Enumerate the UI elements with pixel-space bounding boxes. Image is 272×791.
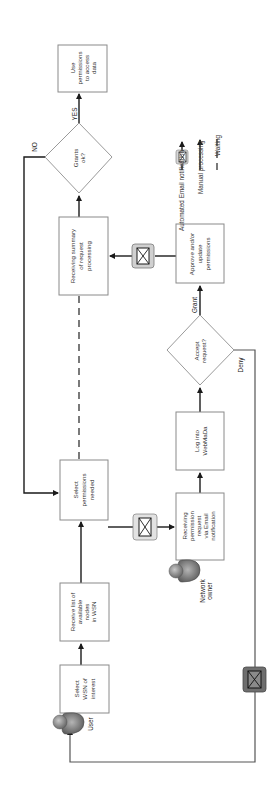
user-label: User [87,716,94,730]
flowchart: Use permissions to access data Grants ok… [0,0,272,791]
svg-text:Select: Select [73,680,80,697]
decision-grants-ok: Grants ok? [45,123,112,193]
svg-text:via Email: via Email [202,513,209,538]
svg-text:Use: Use [69,62,76,74]
svg-text:request: request [195,515,202,536]
node-approve-update: Approve and/or update permissions [176,224,224,283]
node-select-permissions: Select permissions needed [60,460,108,520]
svg-text:permission: permission [188,510,195,540]
svg-text:Log into: Log into [193,429,200,452]
svg-text:Approve and/or: Approve and/or [188,233,195,275]
edge-label-grant: Grant [191,297,198,313]
svg-text:Select: Select [72,481,79,498]
svg-text:data: data [90,61,97,74]
svg-text:WebMaDa: WebMaDa [201,426,208,456]
email-icon [133,514,157,540]
svg-text:update: update [196,244,203,263]
svg-text:in WSN: in WSN [90,602,97,623]
svg-text:needed: needed [88,479,95,500]
svg-text:processing: processing [85,240,92,270]
legend-waiting-label: Waiting [214,134,222,156]
arrow-no-loop [24,157,58,493]
network-owner-label-2: owner [206,581,213,599]
email-icon [132,244,154,268]
edge-label-yes: YES [71,108,78,121]
svg-text:permissions: permissions [80,473,87,506]
legend-email-label: Automated Email notification [178,150,185,231]
node-log-into-webmada: Log into WebMaDa [176,412,224,470]
svg-text:permissions: permissions [204,237,211,270]
legend-manual-label: Manual processing [197,140,205,194]
svg-text:of request: of request [77,242,84,270]
node-select-wsn: Select WSN of interest [60,665,109,713]
svg-text:request?: request? [200,338,207,363]
svg-text:ok?: ok? [79,152,86,163]
svg-text:permissions: permissions [76,51,83,84]
svg-text:available: available [76,599,83,624]
svg-text:to access: to access [83,55,90,81]
svg-text:WSN of: WSN of [81,678,88,700]
svg-text:Receiving: Receiving [181,512,188,540]
node-receiving-permission-request: Receiving permission request via Email n… [176,493,224,560]
svg-text:Receive list of: Receive list of [69,592,76,631]
svg-text:Receiving summary: Receiving summary [69,228,76,283]
decision-accept-request: Accept request? [167,315,234,385]
network-owner-person-icon [169,560,200,582]
edge-label-no: NO [31,142,38,152]
node-receive-list: Receive list of available nodes in WSN [60,583,109,641]
svg-text:Grants: Grants [72,149,79,168]
node-use-permissions: Use permissions to access data [58,45,107,92]
email-icon [243,667,266,692]
svg-text:Accept: Accept [193,341,200,360]
svg-text:notification: notification [209,511,216,541]
edge-label-deny: Deny [237,357,245,373]
node-receiving-summary: Receiving summary of request processing [59,217,108,295]
svg-text:interest: interest [89,679,96,700]
svg-text:nodes: nodes [83,604,90,621]
user-person-icon [53,713,84,734]
legend: Automated Email notification Manual proc… [176,134,222,231]
network-owner-label-1: Network [199,578,206,602]
